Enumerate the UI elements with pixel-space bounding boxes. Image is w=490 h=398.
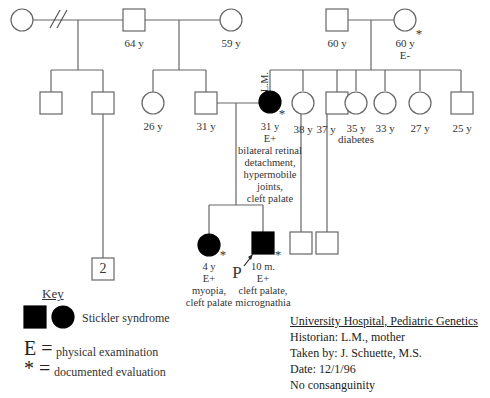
documented-marker: * <box>218 249 228 261</box>
female-symbol <box>292 92 314 114</box>
male-symbol <box>195 92 217 114</box>
key-star-symbol: * = <box>24 357 50 380</box>
proband-mother-name: L.M. <box>259 70 271 94</box>
info-block: University Hospital, Pediatric Genetics … <box>290 313 478 393</box>
male-symbol <box>123 9 145 31</box>
finding-line: cleft palate, <box>233 285 293 297</box>
male-symbol <box>326 9 348 31</box>
age-label: 27 y <box>408 122 432 134</box>
female-symbol <box>374 92 396 114</box>
multiple-count: 2 <box>92 262 114 276</box>
male-symbol <box>290 232 312 254</box>
daughter-exam: E+ <box>189 273 229 285</box>
male-symbol <box>316 232 338 254</box>
info-taken-by: Taken by: J. Schuette, M.S. <box>290 345 478 361</box>
info-date: Date: 12/1/96 <box>290 361 478 377</box>
finding-line: myopia, <box>179 285 239 297</box>
daughter-age: 4 y <box>189 261 229 273</box>
female-symbol <box>394 9 416 31</box>
age-label: 25 y <box>450 122 474 134</box>
affected-male-symbol <box>252 232 274 254</box>
female-symbol <box>11 9 33 31</box>
info-title: University Hospital, Pediatric Genetics <box>290 313 478 329</box>
finding-line: cleft palate <box>179 297 239 309</box>
male-symbol <box>451 92 473 114</box>
documented-marker: * <box>414 28 424 40</box>
male-symbol <box>92 92 114 114</box>
female-symbol <box>220 9 242 31</box>
age-label: 31 y <box>194 120 218 132</box>
affected-female-symbol <box>198 234 220 256</box>
key-e-label: physical examination <box>56 345 158 360</box>
age-label: 64 y <box>122 37 146 49</box>
documented-marker: * <box>273 249 283 261</box>
age-label: 37 y <box>314 123 338 135</box>
male-symbol <box>40 92 62 114</box>
proband-exam: E+ <box>243 273 283 285</box>
finding-line: micrognathia <box>233 297 293 309</box>
female-symbol <box>142 92 164 114</box>
finding-line: cleft palate <box>230 193 310 205</box>
key-affected-label: Stickler syndrome <box>82 311 170 326</box>
finding-line: joints, <box>230 181 310 193</box>
female-symbol <box>345 92 367 114</box>
age-label: 38 y <box>291 123 315 135</box>
age-label: 59 y <box>219 37 243 49</box>
age-label: 60 y <box>325 37 349 49</box>
female-symbol <box>409 92 431 114</box>
finding-line: hypermobile <box>230 169 310 181</box>
age-label: 26 y <box>141 120 165 132</box>
info-consanguinity: No consanguinity <box>290 377 478 393</box>
key-affected-square <box>24 306 46 328</box>
info-historian: Historian: L.M., mother <box>290 329 478 345</box>
finding-line: detachment, <box>230 157 310 169</box>
key-star-label: documented evaluation <box>54 365 166 380</box>
finding-line: bilateral retinal <box>230 145 310 157</box>
documented-marker: * <box>277 108 287 120</box>
age-label: 33 y <box>373 122 397 134</box>
proband-age: 10 m. <box>243 261 283 273</box>
key-title: Key <box>42 286 64 302</box>
proband-marker: P <box>230 264 244 281</box>
condition-note: diabetes <box>336 133 376 145</box>
exam-label: E- <box>393 49 417 61</box>
key-affected-circle <box>52 306 74 328</box>
